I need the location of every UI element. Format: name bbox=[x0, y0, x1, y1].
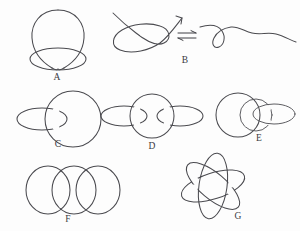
panel-label-e: E bbox=[256, 133, 262, 143]
panel-label-f: F bbox=[65, 214, 70, 224]
panel-label-a: A bbox=[54, 72, 61, 82]
knot-diagram-figure: A B C D bbox=[0, 0, 300, 231]
panel-label-b: B bbox=[182, 55, 188, 65]
panel-label-c: C bbox=[55, 139, 61, 149]
panel-label-d: D bbox=[149, 141, 156, 151]
knot-diagram-canvas: A B C D bbox=[0, 0, 300, 231]
panel-label-g: G bbox=[235, 211, 242, 221]
